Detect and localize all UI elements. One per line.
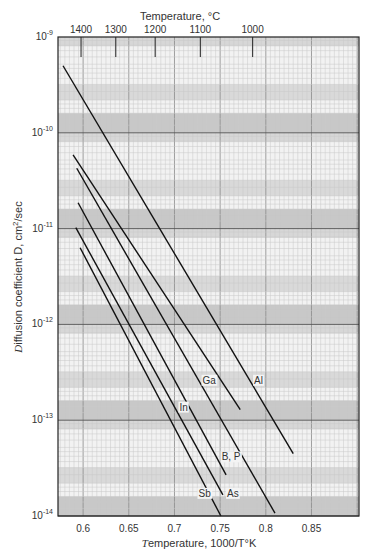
x-axis-title: Temperature, 1000/T°K — [142, 537, 257, 549]
diffusion-chart: 0.60.650.70.750.80.85 10-910-1010-1110-1… — [0, 0, 371, 553]
series-label: Al — [254, 375, 263, 386]
top-tick-label: 1400 — [70, 24, 93, 35]
top-tick-label: 1100 — [190, 24, 212, 35]
series-label: In — [179, 402, 187, 413]
y-tick-label: 10-14 — [32, 508, 53, 521]
x-tick-label: 0.8 — [259, 523, 273, 534]
x-tick-label: 0.65 — [119, 523, 139, 534]
y-tick-label: 10-9 — [36, 29, 53, 42]
top-tick-label: 1300 — [105, 24, 128, 35]
y-tick-label: 10-13 — [32, 412, 53, 425]
top-axis-tick-labels: 14001300120011001000 — [70, 24, 264, 35]
x-tick-label: 0.75 — [210, 523, 230, 534]
y-tick-label: 10-12 — [32, 316, 53, 329]
top-tick-label: 1000 — [241, 24, 264, 35]
series-label: Sb — [199, 488, 212, 499]
y-axis-tick-labels: 10-910-1010-1110-1210-1310-14 — [32, 29, 53, 521]
top-axis-title: Temperature, °C — [140, 10, 220, 22]
top-tick-label: 1200 — [144, 24, 167, 35]
x-tick-label: 0.6 — [76, 523, 90, 534]
y-tick-label: 10-11 — [32, 221, 53, 234]
y-tick-label: 10-10 — [32, 125, 53, 138]
x-tick-label: 0.7 — [168, 523, 182, 534]
series-label: B, P — [222, 451, 241, 462]
y-axis-title: Diffusion coefficient D, cm2/sec — [11, 201, 24, 354]
series-label: As — [227, 488, 239, 499]
series-label: Ga — [203, 375, 217, 386]
x-axis-tick-labels: 0.60.650.70.750.80.85 — [76, 523, 321, 534]
x-tick-label: 0.85 — [302, 523, 322, 534]
